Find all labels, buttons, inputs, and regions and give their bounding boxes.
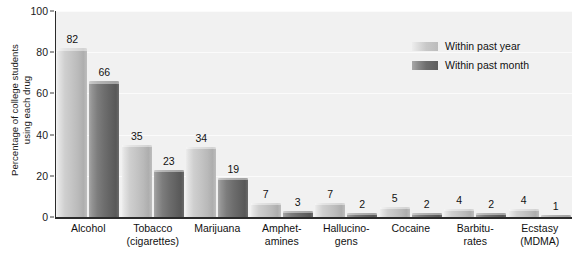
bar-top-highlight	[509, 209, 539, 212]
x-axis-category-label: Tobacco(cigarettes)	[126, 222, 179, 247]
bar	[218, 178, 248, 217]
bar-top-highlight	[476, 213, 506, 216]
x-axis-category-label-line: rates	[457, 235, 494, 248]
bar-top-highlight	[251, 203, 281, 206]
gridline	[56, 93, 572, 94]
bar	[509, 209, 539, 217]
bar-top-highlight	[154, 170, 184, 173]
bar	[315, 203, 345, 217]
bar-value-label: 2	[488, 198, 494, 210]
bar-top-highlight	[283, 211, 313, 214]
x-axis-category-label: Hallucino-gens	[323, 222, 370, 247]
bar-value-label: 4	[456, 194, 462, 206]
x-axis-category-label-line: amines	[262, 235, 302, 248]
bar-value-label: 1	[553, 200, 559, 212]
bar	[57, 48, 87, 217]
y-tick-mark	[50, 93, 54, 94]
x-axis-category-label-line: (MDMA)	[520, 235, 559, 248]
bar-top-highlight	[412, 213, 442, 216]
legend-swatch-light	[412, 42, 438, 51]
y-tick-mark	[50, 11, 54, 12]
bar-value-label: 2	[359, 198, 365, 210]
bar-top-highlight	[218, 178, 248, 181]
legend-label: Within past month	[445, 59, 529, 71]
y-axis-ticks: 020406080100	[0, 0, 56, 260]
x-axis-category-label-line: Alcohol	[71, 222, 105, 235]
y-tick-label: 0	[42, 211, 48, 223]
legend-label: Within past year	[445, 40, 520, 52]
x-axis-category-label: Alcohol	[71, 222, 105, 235]
x-axis-category-label-line: Amphet-	[262, 222, 302, 235]
y-axis-line	[55, 11, 56, 218]
bar-value-label: 5	[392, 192, 398, 204]
bar-value-label: 35	[131, 130, 143, 142]
bar-top-highlight	[315, 203, 345, 206]
bar	[154, 170, 184, 217]
bar	[122, 145, 152, 217]
bar-value-label: 2	[424, 198, 430, 210]
bar-top-highlight	[122, 145, 152, 148]
y-tick-label: 40	[36, 129, 48, 141]
x-axis-category-label-line: Ecstasy	[520, 222, 559, 235]
y-tick-label: 80	[36, 46, 48, 58]
x-axis-category-label-line: (cigarettes)	[126, 235, 179, 248]
bar	[251, 203, 281, 217]
x-axis-category-label: Barbitu-rates	[457, 222, 494, 247]
bar	[444, 209, 474, 217]
y-tick-mark	[50, 134, 54, 135]
gridline	[56, 11, 572, 12]
bar-top-highlight	[444, 209, 474, 212]
legend-item: Within past month	[412, 59, 529, 71]
bar-value-label: 7	[263, 188, 269, 200]
bar	[186, 147, 216, 217]
bar-value-label: 23	[163, 155, 175, 167]
bar-top-highlight	[186, 147, 216, 150]
y-tick-label: 100	[30, 5, 48, 17]
bar-chart: Percentage of college students using eac…	[0, 0, 576, 260]
y-tick-mark	[50, 52, 54, 53]
x-axis-category-label: Ecstasy(MDMA)	[520, 222, 559, 247]
legend-item: Within past year	[412, 40, 529, 52]
bar-value-label: 7	[327, 188, 333, 200]
bar-value-label: 3	[295, 196, 301, 208]
x-axis-category-label: Marijuana	[194, 222, 240, 235]
bar-value-label: 82	[66, 33, 78, 45]
x-axis-category-label-line: Hallucino-	[323, 222, 370, 235]
bar-top-highlight	[380, 207, 410, 210]
bar	[89, 81, 119, 217]
bar-value-label: 66	[98, 66, 110, 78]
x-axis-category-label: Amphet-amines	[262, 222, 302, 247]
chart-legend: Within past yearWithin past month	[412, 40, 529, 71]
x-axis-category-label-line: Tobacco	[126, 222, 179, 235]
bar-top-highlight	[57, 48, 87, 51]
x-axis-category-label-line: gens	[323, 235, 370, 248]
y-tick-label: 20	[36, 170, 48, 182]
legend-swatch-dark	[412, 61, 438, 70]
x-axis-category-label-line: Marijuana	[194, 222, 240, 235]
x-axis-category-label-line: Barbitu-	[457, 222, 494, 235]
y-tick-mark	[50, 175, 54, 176]
bar-value-label: 34	[195, 132, 207, 144]
y-tick-label: 60	[36, 87, 48, 99]
bar-value-label: 19	[227, 163, 239, 175]
bar-value-label: 4	[521, 194, 527, 206]
bar-top-highlight	[347, 213, 377, 216]
x-axis-category-label-line: Cocaine	[391, 222, 430, 235]
bar	[380, 207, 410, 217]
y-tick-mark	[50, 217, 54, 218]
x-axis-category-label: Cocaine	[391, 222, 430, 235]
x-axis-line	[55, 217, 572, 219]
bar-top-highlight	[89, 81, 119, 84]
